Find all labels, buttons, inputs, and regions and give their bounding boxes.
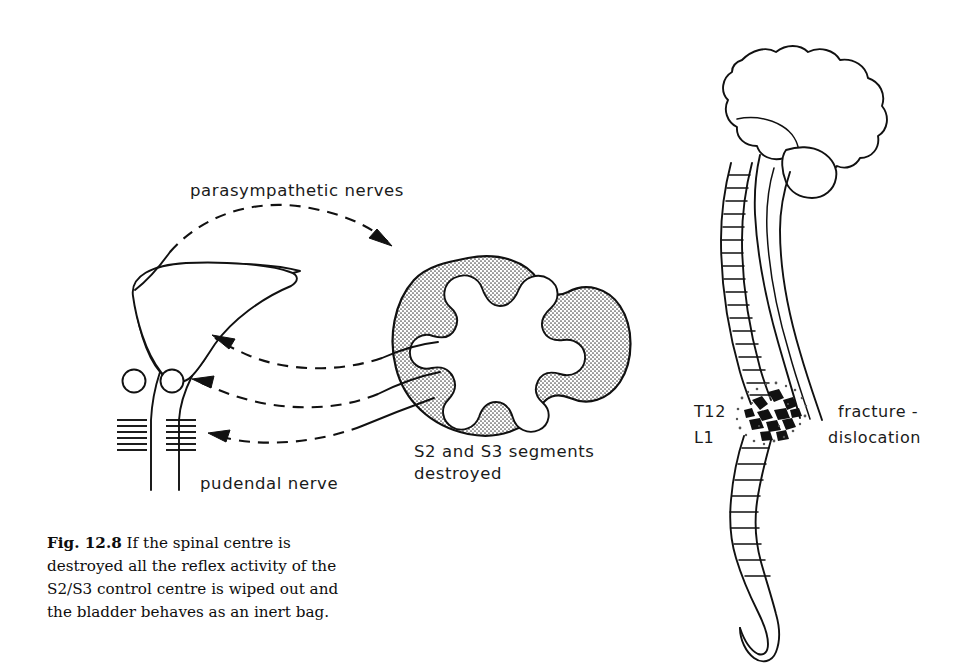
vertebral-column-anterior-lower <box>730 436 768 655</box>
bladder-body <box>133 262 297 382</box>
efferent-bladder-dashed <box>215 338 382 368</box>
efferent-sphincter-dashed <box>196 381 378 407</box>
pudendal-nerve-label: pudendal nerve <box>200 474 338 493</box>
caption-line-1: Fig. 12.8 If the spinal centre is <box>47 532 347 555</box>
caption-text-1: If the spinal centre is <box>127 534 291 552</box>
spinal-cord-posterior-wall <box>780 172 822 420</box>
caption-line-3: S2/S3 control centre is wiped out and <box>47 578 347 601</box>
parasympathetic-arrowhead <box>369 229 392 246</box>
efferent-pelvic-dashed <box>212 426 362 443</box>
fracture-dislocation-label-line1: fracture - <box>838 402 918 421</box>
external-sphincter-circle <box>161 370 184 393</box>
fracture-dislocation-label-line2: dislocation <box>828 428 921 447</box>
pelvic-floor-hatch-right <box>166 420 196 450</box>
vertebral-column-posterior-lower <box>740 440 779 661</box>
figure-12-8: parasympathetic nerves pudendal nerve S2… <box>0 0 959 672</box>
vertebral-column-anterior-upper <box>721 163 751 404</box>
efferent-sphincter-arrowhead <box>192 376 214 388</box>
left-panel-group: parasympathetic nerves pudendal nerve S2… <box>117 181 631 493</box>
parasympathetic-dashed-path <box>170 205 388 252</box>
caption-figure-number: Fig. 12.8 <box>47 534 122 552</box>
right-panel-group: T12 L1 fracture - dislocation <box>693 46 921 661</box>
vertebra-level-l1-label: L1 <box>694 428 714 447</box>
figure-caption: Fig. 12.8 If the spinal centre is destro… <box>47 532 347 624</box>
vertebra-level-t12-label: T12 <box>693 402 726 421</box>
spinal-cord-anterior-wall <box>755 155 800 418</box>
urethra-left-wall <box>151 372 160 490</box>
vertebral-column-posterior-upper <box>742 163 771 400</box>
spinal-cord-center-line <box>767 168 810 419</box>
parasympathetic-nerves-label: parasympathetic nerves <box>190 181 404 200</box>
s2-s3-segments-label-line2: destroyed <box>414 464 502 483</box>
pelvic-floor-hatch-left <box>117 420 147 450</box>
urethra-right-wall <box>179 376 192 490</box>
caption-line-4: the bladder behaves as an inert bag. <box>47 601 347 624</box>
efferent-pelvic-arrowhead <box>208 430 230 442</box>
internal-sphincter-circle <box>123 370 146 393</box>
caption-line-2: destroyed all the reflex activity of the <box>47 555 347 578</box>
s2-s3-segments-label-line1: S2 and S3 segments <box>414 442 595 461</box>
